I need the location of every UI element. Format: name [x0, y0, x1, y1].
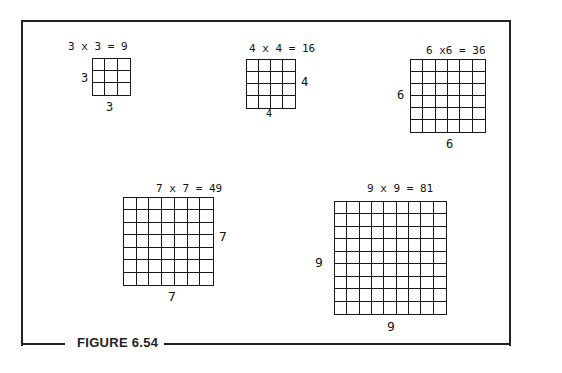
grid-3x3	[92, 58, 131, 96]
grid-cell	[137, 273, 150, 285]
grid-cell	[149, 235, 162, 247]
grid-cell	[411, 120, 423, 132]
grid-cell	[271, 84, 283, 96]
grid-cell	[448, 96, 460, 108]
grid-cell	[149, 223, 162, 235]
equation-7x7: 7 x 7 = 49	[156, 182, 222, 195]
grid-cell	[448, 72, 460, 84]
grid-cell	[372, 239, 384, 251]
grid-cell	[473, 96, 485, 108]
grid-cell	[247, 60, 259, 72]
grid-cell	[93, 59, 105, 71]
grid-cell	[271, 72, 283, 84]
grid-cell	[360, 214, 372, 226]
grid-cell	[434, 277, 446, 289]
grid-cell	[124, 235, 137, 247]
grid-cell	[162, 235, 175, 247]
grid-cell	[384, 227, 396, 239]
grid-cell	[347, 252, 359, 264]
grid-cell	[397, 252, 409, 264]
grid-cell	[124, 198, 137, 210]
grid-cell	[259, 60, 271, 72]
grid-cell	[436, 84, 448, 96]
grid-cell	[397, 214, 409, 226]
grid-cell	[460, 120, 472, 132]
grid-cell	[149, 273, 162, 285]
grid-cell	[423, 96, 435, 108]
grid-4x4	[246, 59, 296, 109]
side-label-3x3: 3	[81, 71, 88, 85]
grid-cell	[200, 198, 213, 210]
grid-cell	[421, 227, 433, 239]
grid-cell	[421, 289, 433, 301]
grid-cell	[423, 60, 435, 72]
grid-cell	[384, 289, 396, 301]
grid-cell	[149, 248, 162, 260]
grid-cell	[124, 248, 137, 260]
grid-cell	[434, 289, 446, 301]
grid-cell	[448, 60, 460, 72]
grid-cell	[175, 223, 188, 235]
grid-cell	[175, 273, 188, 285]
grid-9x9	[334, 201, 447, 315]
bottom-label-9x9: 9	[387, 319, 395, 334]
grid-cell	[93, 83, 105, 95]
grid-cell	[460, 96, 472, 108]
grid-cell	[411, 96, 423, 108]
bottom-label-4x4: 4	[266, 108, 272, 119]
grid-cell	[411, 108, 423, 120]
grid-cell	[188, 235, 201, 247]
grid-cell	[347, 277, 359, 289]
grid-cell	[423, 120, 435, 132]
grid-cell	[384, 264, 396, 276]
grid-cell	[347, 227, 359, 239]
grid-cell	[409, 214, 421, 226]
grid-cell	[200, 260, 213, 272]
grid-cell	[411, 60, 423, 72]
grid-cell	[105, 83, 117, 95]
grid-cell	[434, 227, 446, 239]
side-label-9x9: 9	[315, 255, 323, 270]
grid-cell	[105, 71, 117, 83]
grid-cell	[384, 252, 396, 264]
bottom-label-7x7: 7	[168, 289, 176, 304]
grid-cell	[372, 227, 384, 239]
frame-bottom-left	[21, 343, 65, 345]
grid-cell	[409, 239, 421, 251]
grid-cell	[372, 302, 384, 314]
grid-cell	[372, 289, 384, 301]
grid-cell	[372, 277, 384, 289]
grid-cell	[397, 302, 409, 314]
equation-9x9: 9 x 9 = 81	[367, 182, 433, 195]
grid-cell	[421, 239, 433, 251]
grid-cell	[149, 260, 162, 272]
grid-cell	[434, 302, 446, 314]
grid-cell	[162, 260, 175, 272]
grid-cell	[105, 59, 117, 71]
grid-cell	[411, 84, 423, 96]
grid-cell	[137, 260, 150, 272]
grid-cell	[124, 260, 137, 272]
grid-cell	[175, 235, 188, 247]
grid-cell	[397, 264, 409, 276]
grid-cell	[149, 210, 162, 222]
grid-cell	[397, 239, 409, 251]
grid-cell	[460, 108, 472, 120]
grid-cell	[259, 96, 271, 108]
grid-cell	[360, 239, 372, 251]
grid-cell	[434, 264, 446, 276]
equation-4x4: 4 x 4 = 16	[249, 42, 315, 55]
grid-cell	[409, 252, 421, 264]
grid-cell	[347, 214, 359, 226]
grid-cell	[188, 248, 201, 260]
grid-cell	[436, 96, 448, 108]
grid-cell	[360, 227, 372, 239]
grid-cell	[283, 84, 295, 96]
grid-6x6	[410, 59, 486, 133]
bottom-label-6x6: 6	[446, 137, 453, 151]
grid-cell	[409, 302, 421, 314]
grid-cell	[434, 214, 446, 226]
side-label-6x6: 6	[397, 88, 404, 102]
grid-cell	[409, 227, 421, 239]
grid-cell	[347, 239, 359, 251]
